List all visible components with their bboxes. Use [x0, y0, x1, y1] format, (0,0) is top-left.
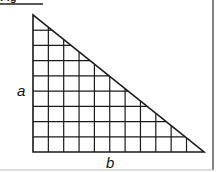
grid-lines	[33, 27, 187, 152]
side-label-a: a	[17, 83, 25, 98]
triangle-grid-diagram	[0, 0, 216, 172]
side-label-b: b	[106, 155, 114, 170]
right-triangle	[33, 15, 204, 152]
